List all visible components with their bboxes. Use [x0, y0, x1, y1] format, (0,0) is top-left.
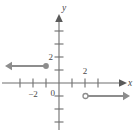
arrow-right-icon [123, 92, 130, 100]
arrow-up-icon [55, 14, 63, 22]
right-ray [83, 92, 130, 100]
arrow-left-icon [5, 62, 12, 70]
y-tick-label-pos2: 2 [49, 52, 54, 62]
coordinate-plane-figure: x y 0 −2 2 2 [0, 0, 139, 131]
graph-canvas: x y 0 −2 2 2 [0, 0, 139, 131]
x-tick-label-neg2: −2 [28, 89, 38, 99]
open-circle-icon [83, 94, 88, 99]
y-axis-label: y [61, 3, 67, 13]
left-ray [5, 62, 49, 70]
arrow-right-icon [119, 79, 127, 87]
origin-label: 0 [51, 88, 56, 98]
x-axis-label: x [127, 78, 133, 88]
filled-circle-icon [43, 63, 49, 69]
x-axis [2, 79, 127, 88]
y-axis [55, 14, 64, 130]
x-tick-label-pos2: 2 [83, 66, 88, 76]
